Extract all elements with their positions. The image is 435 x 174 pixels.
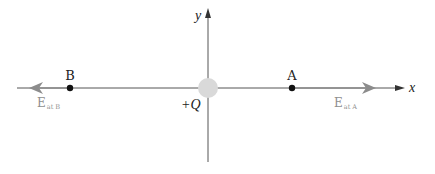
point-b — [67, 85, 73, 91]
point-a-label: A — [286, 68, 297, 83]
charge-label: +Q — [181, 97, 201, 112]
y-axis-label: y — [193, 8, 202, 23]
y-axis-arrow-icon — [205, 8, 211, 18]
field-b-label: Eat B — [37, 96, 60, 111]
x-axis-arrow-icon — [395, 85, 405, 91]
field-diagram: A B x y +Q Eat A Eat B — [0, 0, 435, 174]
point-b-label: B — [65, 68, 75, 83]
charge-q — [198, 78, 218, 98]
field-b-symbol: E — [37, 96, 46, 110]
field-a-subscript: at A — [344, 103, 358, 111]
point-a — [289, 85, 295, 91]
field-a-symbol: E — [334, 96, 343, 110]
field-a-label: Eat A — [334, 96, 357, 111]
field-b-subscript: at B — [47, 103, 61, 111]
x-axis-label: x — [408, 80, 416, 95]
